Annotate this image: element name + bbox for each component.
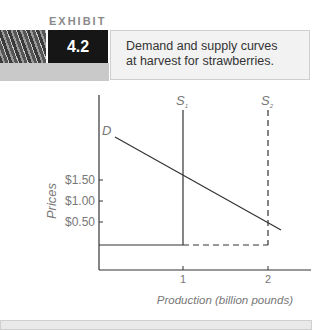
supply-demand-chart: $1.50 $1.00 $0.50 Prices 1 2 Production … [0, 85, 330, 320]
y-tick-150: $1.50 [65, 173, 95, 187]
bottom-bar [0, 320, 312, 330]
exhibit-number: 4.2 [48, 30, 108, 63]
x-tick-1: 1 [180, 273, 186, 285]
x-axis-label: Production (billion pounds) [157, 294, 293, 306]
x-tick-2: 2 [265, 273, 271, 285]
y-tick-100: $1.00 [65, 194, 95, 208]
y-tick-050: $0.50 [65, 215, 95, 229]
field-photo [0, 30, 46, 63]
s1-label: S1 [176, 93, 188, 109]
exhibit-caption: Demand and supply curves at harvest for … [110, 30, 310, 80]
demand-label: D [102, 123, 111, 138]
y-axis-label: Prices [44, 182, 59, 219]
caption-line-2: at harvest for strawberries. [126, 54, 309, 69]
demand-curve [115, 137, 281, 230]
header-gray-strip [0, 63, 109, 81]
s2-label: S2 [261, 93, 274, 109]
exhibit-label: EXHIBIT [49, 15, 106, 27]
caption-line-1: Demand and supply curves [126, 39, 309, 54]
